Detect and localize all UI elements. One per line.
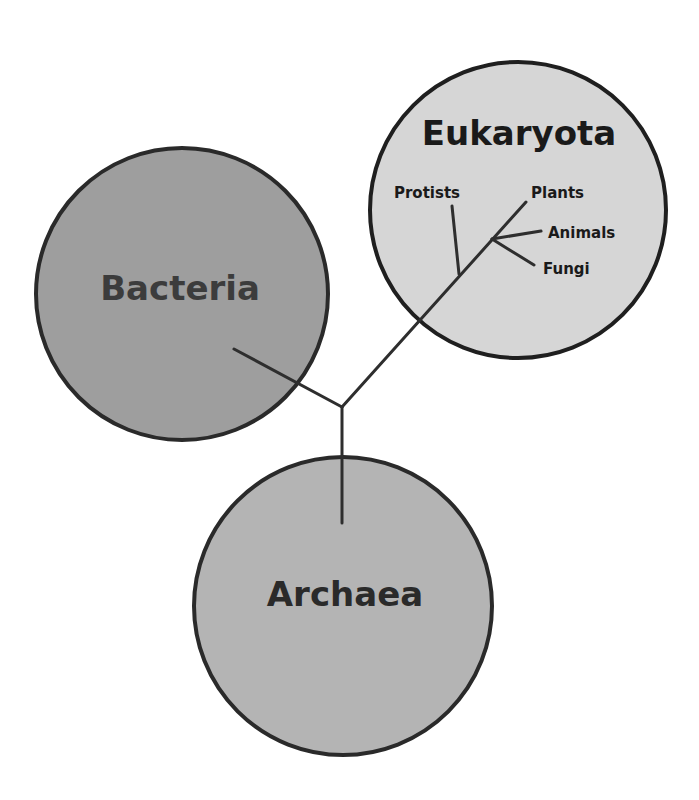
bacteria-domain: Bacteria xyxy=(36,148,328,440)
protists-label: Protists xyxy=(394,184,460,202)
bacteria-label: Bacteria xyxy=(100,268,260,308)
archaea-label: Archaea xyxy=(267,574,423,614)
animals-label: Animals xyxy=(548,224,615,242)
three-domains-diagram: Bacteria Archaea Eukaryota Protists Plan… xyxy=(0,0,699,800)
fungi-label: Fungi xyxy=(543,260,590,278)
eukaryota-label: Eukaryota xyxy=(422,113,616,153)
plants-label: Plants xyxy=(531,184,584,202)
